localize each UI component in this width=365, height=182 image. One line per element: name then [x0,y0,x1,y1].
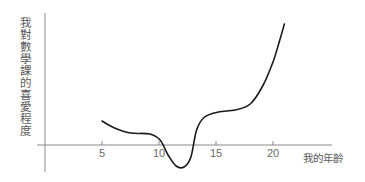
x-tick-label: 20 [267,147,279,159]
x-ticks [102,141,273,145]
x-tick-label: 10 [153,147,165,159]
x-axis-label: 我的年齡 [303,150,343,165]
x-tick-label: 5 [99,147,105,159]
y-axis-label: 我對數學課的喜愛程度 [15,17,30,137]
x-tick-label: 15 [210,147,222,159]
data-line [102,24,284,168]
